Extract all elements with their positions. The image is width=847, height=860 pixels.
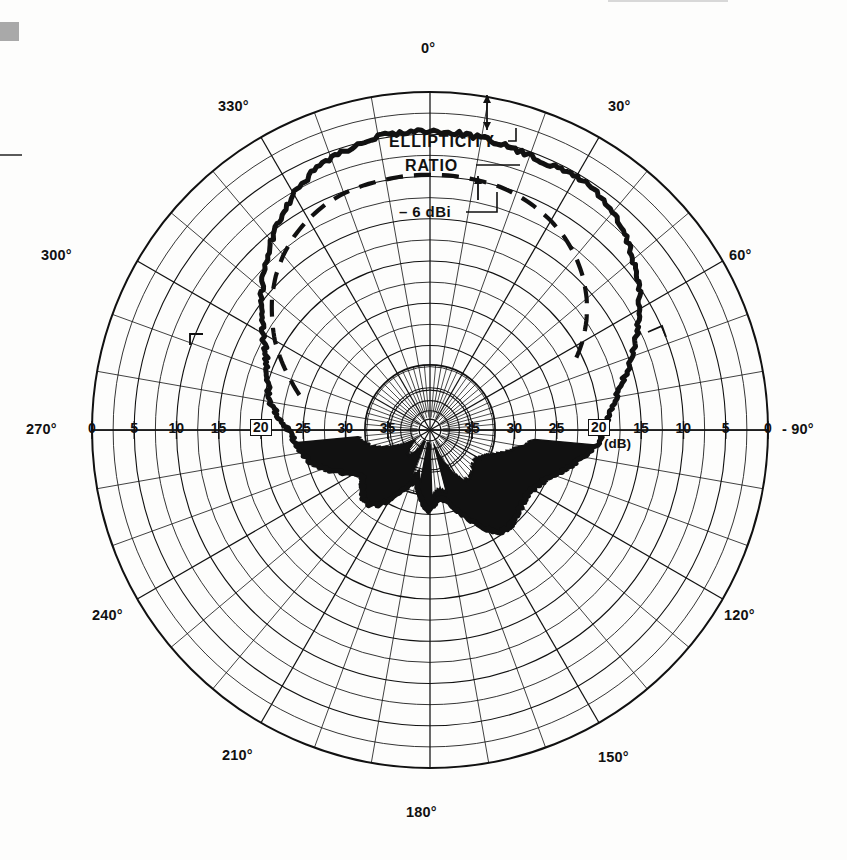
annotation-leader [508, 128, 516, 141]
polar-radiation-pattern-chart [0, 0, 847, 860]
annotation-ellipticity-line2: RATIO [405, 158, 458, 174]
angle-label-minus-90: - 90° [782, 422, 814, 437]
rear-lobe-fill [295, 437, 598, 533]
radial-label-left-5: 5 [130, 421, 138, 435]
angle-label-330: 330° [218, 99, 249, 114]
grid-spoke-30 [430, 137, 599, 430]
radial-label-left-35: 35 [380, 421, 396, 435]
annotation-leader [648, 326, 666, 337]
radial-label-right-10: 10 [676, 421, 692, 435]
grid-spoke-330 [261, 137, 430, 430]
annotation-ellipticity-line1: ELLIPTICITY [389, 134, 495, 150]
angle-label-240: 240° [92, 608, 123, 623]
radial-label-left-30: 30 [338, 421, 354, 435]
angle-label-180: 180° [406, 805, 437, 820]
radial-label-right-15: 15 [633, 421, 649, 435]
angle-label-300: 300° [41, 248, 72, 263]
grid-spoke-300 [137, 261, 430, 430]
radial-label-left-0: 0 [88, 421, 96, 435]
radial-label-left-20: 20 [250, 419, 272, 436]
grid-spoke-60 [430, 261, 723, 430]
angle-label-150: 150° [598, 750, 629, 765]
angle-label-270: 270° [26, 422, 57, 437]
arrow-head-down [483, 122, 491, 130]
radial-label-right-20: 20 [588, 419, 610, 436]
annotation-minus-6-dbi: – 6 dBi [399, 204, 451, 219]
angle-label-120: 120° [724, 608, 755, 623]
angle-label-60: 60° [729, 248, 752, 263]
angle-label-210: 210° [222, 748, 253, 763]
page-root: 0° 30° 60° 120° 150° 180° 210° 240° 270°… [0, 0, 847, 860]
angle-label-0: 0° [421, 41, 435, 56]
radial-label-right-35: 35 [464, 421, 480, 435]
radial-label-right-5: 5 [722, 421, 730, 435]
radial-label-right-30: 30 [507, 421, 523, 435]
radial-label-right-0: 0 [764, 421, 772, 435]
measured-pattern-trace [260, 130, 641, 533]
radial-label-left-25: 25 [295, 421, 311, 435]
angle-label-30: 30° [608, 99, 631, 114]
radial-label-right-25: 25 [549, 421, 565, 435]
annotation-leader [466, 192, 497, 212]
radial-unit-label: (dB) [604, 437, 631, 451]
radial-label-left-15: 15 [211, 421, 227, 435]
radial-label-left-10: 10 [169, 421, 185, 435]
